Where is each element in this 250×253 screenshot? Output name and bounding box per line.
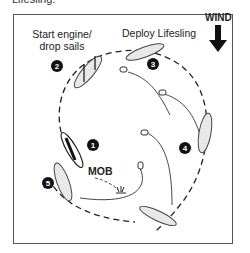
boat-6-icon	[138, 203, 178, 229]
label-line: Start engine/	[22, 28, 102, 40]
lifesling-icon	[138, 162, 143, 169]
deploy-lifesling-label: Deploy Lifesling	[122, 27, 196, 39]
boat-4-icon	[196, 112, 215, 153]
start-engine-label: Start engine/ drop sails	[22, 28, 102, 52]
label-line: drop sails	[22, 40, 102, 52]
lifesling-icon	[120, 67, 127, 72]
wind-arrow-icon	[209, 25, 227, 52]
step-5-number: 5	[43, 178, 53, 190]
mob-label: MOB	[88, 165, 113, 177]
wind-label: WIND	[205, 12, 232, 24]
boat-3-icon	[124, 40, 165, 63]
mob-person-icon	[116, 186, 126, 193]
lifesling-line-4a	[160, 93, 200, 135]
lifesling-line-4b	[145, 132, 172, 205]
lifesling-icon	[159, 90, 166, 95]
step-3-number: 3	[148, 59, 158, 71]
step-2-number: 2	[52, 61, 62, 73]
step-4-number: 4	[180, 143, 190, 155]
mob-line	[95, 178, 118, 190]
step-1-number: 1	[88, 140, 98, 152]
lifesling-icon	[141, 130, 148, 135]
